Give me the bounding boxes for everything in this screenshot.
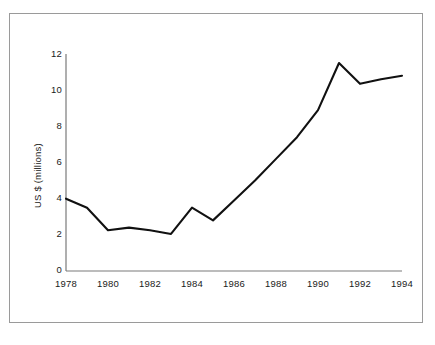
y-tick-8: 8: [40, 120, 62, 131]
x-tick-1978: 1978: [46, 278, 86, 289]
y-tick-0: 0: [40, 264, 62, 275]
x-tick-1984: 1984: [172, 278, 212, 289]
y-tick-4: 4: [40, 192, 62, 203]
y-tick-12: 12: [40, 48, 62, 59]
y-tick-2: 2: [40, 228, 62, 239]
chart-figure: 12 10 8 6 4 2 0 1978 1980 1982 1984 1986…: [0, 0, 435, 345]
y-axis-label: US $ (millions): [32, 143, 43, 208]
y-tick-10: 10: [40, 84, 62, 95]
y-tick-6: 6: [40, 156, 62, 167]
x-tick-1982: 1982: [130, 278, 170, 289]
x-tick-1980: 1980: [88, 278, 128, 289]
x-tick-1988: 1988: [256, 278, 296, 289]
x-tick-1992: 1992: [340, 278, 380, 289]
chart-plot-area: [0, 0, 435, 345]
x-tick-1990: 1990: [298, 278, 338, 289]
x-tick-1986: 1986: [214, 278, 254, 289]
x-tick-1994: 1994: [382, 278, 422, 289]
data-series-line: [66, 63, 402, 234]
